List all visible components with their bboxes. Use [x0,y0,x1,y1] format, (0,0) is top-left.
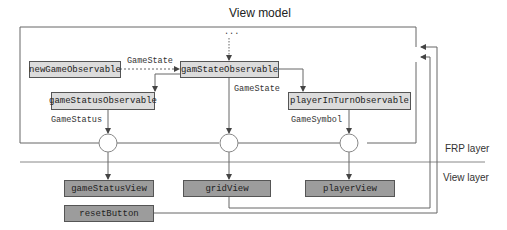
view-layer-label: View layer [443,172,489,183]
game-state-observable-node: gamStateObservable [180,61,279,78]
edge-label-ellipsis: ... [224,27,239,37]
player-view-node: playerView [305,180,395,197]
view-model-title: View model [229,6,291,20]
merge-node-symbol [340,134,358,152]
game-status-observable-node: gameStatusObservable [51,92,155,110]
grid-view-node: gridView [183,180,271,197]
merge-node-grid [220,134,238,152]
player-in-turn-observable-node: playerInTurnObservable [288,92,411,110]
edge-label-gamestate-new: GameState [127,56,173,66]
merge-node-status [99,134,117,152]
edge-label-gamesymbol: GameSymbol [291,115,342,125]
frp-layer-label: FRP layer [445,143,489,154]
view-model-frame [20,27,416,143]
new-game-observable-node: newGameObservable [29,61,121,78]
edge-label-gamestate-grid: GameState [234,84,280,94]
edge-label-gamestatus: GameStatus [51,115,102,125]
game-status-view-node: gameStatusView [64,180,154,197]
reset-button-node: resetButton [64,205,154,222]
